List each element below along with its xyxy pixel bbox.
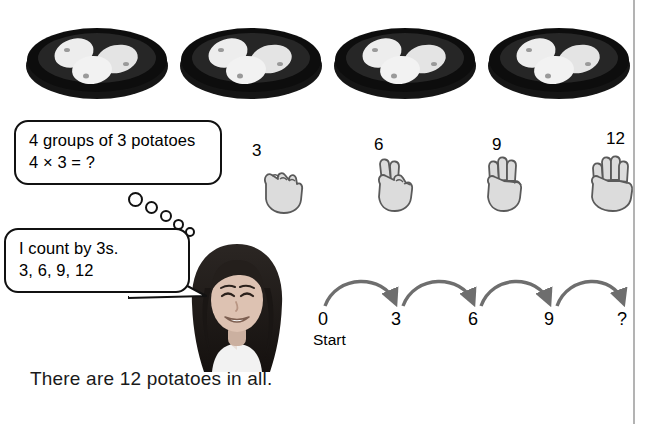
- hand-count-6: 6: [362, 136, 424, 212]
- hand-label-6: 6: [374, 136, 383, 153]
- hand-three-fingers-icon: [480, 152, 534, 212]
- number-line-label-unknown: ?: [602, 310, 642, 328]
- bowl-with-potatoes-icon: [330, 18, 480, 100]
- hand-label-3: 3: [252, 142, 261, 159]
- number-line-label-9: 9: [529, 310, 569, 328]
- hand-four-fingers-icon: [584, 152, 640, 212]
- number-line-label-3: 3: [376, 310, 416, 328]
- hand-count-12: 12: [578, 130, 642, 212]
- thought-dot: [145, 201, 158, 214]
- hand-count-9: 9: [474, 136, 536, 212]
- bowl-group: [22, 18, 172, 100]
- bowl-group: [330, 18, 480, 100]
- speech-bubble-count-by: I count by 3s. 3, 6, 9, 12: [4, 228, 190, 293]
- bowl-with-potatoes-icon: [22, 18, 172, 100]
- bubble-count-line2: 3, 6, 9, 12: [19, 260, 176, 282]
- number-line-label-6: 6: [453, 310, 493, 328]
- number-line-start-label: Start: [313, 332, 373, 348]
- bubble-groups-line2: 4 × 3 = ?: [29, 152, 208, 174]
- bowl-group: [176, 18, 326, 100]
- bowl-with-potatoes-icon: [484, 18, 634, 100]
- number-line-label-0: 0: [303, 310, 343, 328]
- potato-bowls-row: [0, 18, 634, 103]
- bowl-group: [484, 18, 634, 100]
- thought-dot: [128, 192, 143, 207]
- number-line-labels: 0 3 6 9 ? Start: [305, 268, 641, 358]
- hand-label-9: 9: [492, 136, 501, 153]
- hand-label-12: 12: [606, 130, 625, 147]
- bubble-groups-line1: 4 groups of 3 potatoes: [29, 130, 208, 152]
- bubble-count-line1: I count by 3s.: [19, 238, 176, 260]
- thought-dot: [160, 210, 172, 222]
- bowl-with-potatoes-icon: [176, 18, 326, 100]
- hand-count-3: 3: [246, 140, 306, 212]
- speech-bubble-groups: 4 groups of 3 potatoes 4 × 3 = ?: [14, 120, 222, 185]
- hand-two-fingers-icon: [370, 152, 422, 212]
- worksheet-page: 4 groups of 3 potatoes 4 × 3 = ? I count…: [0, 0, 647, 424]
- hand-fist-icon: [258, 158, 306, 214]
